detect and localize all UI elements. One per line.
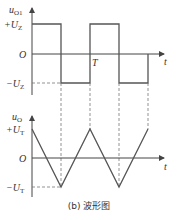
top-plot: uO1 +UZ O −UZ T t — [4, 4, 167, 95]
alignment-guides — [61, 83, 148, 187]
bottom-y-label: uO — [12, 111, 22, 124]
bottom-plot: uO +UT O −UT t — [6, 111, 167, 197]
top-upper-level-label: +UZ — [4, 19, 22, 32]
top-origin-label: O — [19, 49, 26, 60]
figure-caption: (b) 波形图 — [68, 200, 111, 211]
bottom-origin-label: O — [19, 153, 26, 164]
bottom-lower-level-label: −UT — [6, 182, 25, 195]
bottom-upper-level-label: +UT — [6, 124, 25, 137]
period-label: T — [92, 57, 99, 68]
top-x-label: t — [164, 56, 167, 67]
top-y-label: uO1 — [9, 4, 23, 17]
waveform-diagram: uO1 +UZ O −UZ T t uO +UT O −UT t (b) 波形图 — [0, 0, 178, 220]
bottom-x-label: t — [164, 161, 167, 172]
top-lower-level-label: −UZ — [6, 78, 24, 91]
